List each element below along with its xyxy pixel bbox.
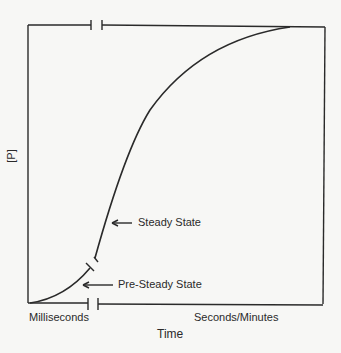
x-axis-right (98, 304, 323, 305)
diagram-canvas (0, 0, 341, 353)
x-region-seconds-minutes: Seconds/Minutes (194, 311, 278, 323)
curve-pre-steady (30, 268, 90, 303)
x-axis-label: Time (157, 327, 183, 341)
steady-state-label: Steady State (138, 216, 201, 228)
frame-top-right (102, 25, 325, 27)
frame-right (323, 27, 325, 304)
x-region-milliseconds: Milliseconds (29, 311, 89, 323)
pre-steady-state-label: Pre-Steady State (118, 278, 202, 290)
y-axis-label: [P] (5, 149, 17, 162)
curve-break-mark-1 (86, 263, 94, 271)
